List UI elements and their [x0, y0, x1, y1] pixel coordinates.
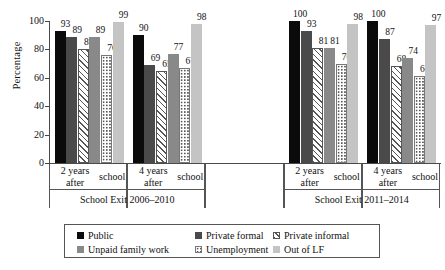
legend-item: Private formal [195, 230, 263, 241]
category-label: 4 years afterschool [363, 164, 439, 189]
legend-label: Unemployment [206, 244, 268, 255]
legend-item: Private informal [273, 230, 349, 241]
bar [133, 35, 144, 163]
bar [113, 22, 124, 163]
bar-value-label: 93 [301, 20, 323, 30]
legend-label: Private formal [206, 230, 263, 241]
bar [367, 21, 378, 163]
legend-item: Unpaid family work [77, 244, 169, 255]
y-tick-mark [45, 106, 49, 107]
bar-value-label: 97 [425, 14, 445, 24]
bar-value-label: 99 [113, 11, 135, 21]
bar [379, 39, 390, 163]
y-tick-label: 0 [16, 158, 44, 168]
bar-chart: Percentage 020406080100 9389808976999069… [0, 0, 445, 270]
y-tick-mark [45, 78, 49, 79]
y-tick-label: 20 [16, 130, 44, 140]
bar [55, 31, 66, 163]
bar-value-label: 89 [89, 26, 111, 36]
bar [78, 49, 89, 163]
bar [301, 31, 312, 163]
y-tick-mark [45, 135, 49, 136]
category-label: 2 years afterschool [285, 164, 361, 189]
bar [425, 25, 436, 163]
category-label: 4 years afterschool [128, 164, 204, 189]
bar-value-label: 87 [379, 28, 401, 38]
y-tick-mark [45, 21, 49, 22]
chart-legend: PublicPrivate formalPrivate informal Unp… [64, 224, 380, 258]
bar-value-label: 100 [367, 10, 389, 20]
bar [66, 37, 77, 163]
category-label [206, 164, 282, 189]
category-axis: 2 years afterschool4 years afterschool2 … [49, 164, 441, 208]
bar-value-label: 98 [347, 13, 369, 23]
bar-value-label: 98 [191, 13, 213, 23]
bar-value-label: 90 [133, 24, 155, 34]
bar [414, 76, 425, 163]
legend-swatch [273, 232, 280, 239]
legend-swatch [273, 246, 280, 253]
y-tick-label: 40 [16, 101, 44, 111]
bar [289, 21, 300, 163]
legend-swatch [77, 232, 84, 239]
legend-swatch [77, 246, 84, 253]
bar [312, 48, 323, 163]
bar-value-label: 89 [66, 26, 88, 36]
bar [89, 37, 100, 163]
legend-row: PublicPrivate formalPrivate informal [71, 228, 373, 242]
bar [324, 48, 335, 163]
y-tick-mark [45, 163, 49, 164]
bar [191, 24, 202, 163]
bar [179, 68, 190, 163]
y-tick-label: 60 [16, 73, 44, 83]
supergroup-label: School Exit 2011–2014 [284, 189, 440, 208]
legend-item: Public [77, 230, 114, 241]
legend-label: Out of LF [284, 244, 324, 255]
y-tick-mark [45, 49, 49, 50]
bar-value-label: 77 [168, 43, 190, 53]
legend-label: Public [88, 230, 114, 241]
bar [156, 71, 167, 163]
legend-row: Unpaid family workUnemploymentOut of LF [71, 242, 373, 256]
bar [402, 58, 413, 163]
bar [336, 64, 347, 163]
legend-item: Unemployment [195, 244, 268, 255]
category-label: 2 years afterschool [50, 164, 126, 189]
legend-label: Private informal [284, 230, 349, 241]
bar [391, 66, 402, 163]
plot-area: 9389808976999069657767981009381817098100… [50, 21, 441, 163]
y-axis-tick-labels: 020406080100 [16, 0, 44, 170]
bar [144, 65, 155, 163]
supergroup-label: School Exit 2006–2010 [49, 189, 205, 208]
bar [101, 55, 112, 163]
y-tick-label: 80 [16, 44, 44, 54]
bar [168, 54, 179, 163]
legend-swatch [195, 232, 202, 239]
bar [347, 24, 358, 163]
legend-swatch [195, 246, 202, 253]
legend-item: Out of LF [273, 244, 324, 255]
bar-value-label: 74 [402, 47, 424, 57]
y-tick-label: 100 [16, 16, 44, 26]
bar-value-label: 81 [324, 37, 346, 47]
category-cell [205, 164, 283, 208]
legend-label: Unpaid family work [88, 244, 169, 255]
